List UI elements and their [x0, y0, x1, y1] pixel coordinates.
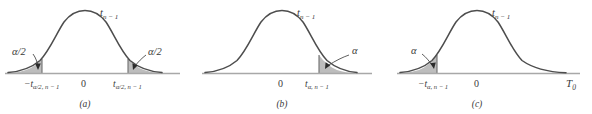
tick-label-zero: 0	[81, 78, 86, 89]
panel-b: α tn − 1 0 tα, n − 1 (b)	[197, 0, 394, 114]
tick-label-negative-critical: −tα, n − 1	[418, 79, 448, 90]
alpha-right-leader	[135, 55, 146, 66]
panel-b-plot: α tn − 1 0 tα, n − 1 (b)	[197, 0, 394, 114]
tick-label-positive-critical: tα, n − 1	[305, 79, 329, 90]
alpha-left-label: α/2	[12, 46, 26, 57]
t-density-curve	[400, 11, 566, 73]
t-density-curve	[205, 11, 357, 73]
alpha-label: α	[411, 45, 417, 56]
panel-c: α tn − 1 −tα, n − 1 0 T0 (c)	[394, 0, 591, 114]
tick-label-negative-critical: −tα/2, n − 1	[24, 79, 59, 90]
panel-caption: (a)	[79, 99, 90, 110]
alpha-leader	[329, 55, 349, 65]
panel-c-plot: α tn − 1 −tα, n − 1 0 T0 (c)	[394, 0, 592, 114]
alpha-right-label: α/2	[148, 46, 162, 57]
panel-caption: (c)	[472, 99, 483, 110]
t-distribution-figure: α/2 α/2 tn − 1 −tα/2, n − 1 0 tα/2, n − …	[0, 0, 592, 114]
tick-label-zero: 0	[474, 78, 479, 89]
panel-caption: (b)	[276, 99, 287, 110]
curve-label: tn − 1	[297, 7, 315, 21]
alpha-label: α	[352, 45, 358, 56]
curve-label: tn − 1	[100, 7, 118, 21]
panel-a: α/2 α/2 tn − 1 −tα/2, n − 1 0 tα/2, n − …	[0, 0, 197, 114]
t-density-curve	[8, 11, 162, 73]
curve-label: tn − 1	[492, 7, 510, 21]
tick-label-zero: 0	[278, 78, 283, 89]
panel-a-plot: α/2 α/2 tn − 1 −tα/2, n − 1 0 tα/2, n − …	[0, 0, 197, 114]
tick-label-positive-critical: tα/2, n − 1	[113, 79, 142, 90]
axis-label-T0: T0	[566, 77, 576, 92]
